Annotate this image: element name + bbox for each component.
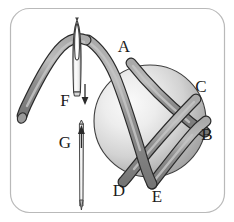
point-label-b: B (201, 125, 212, 144)
point-label-d: D (113, 181, 125, 200)
point-label-e: E (152, 187, 162, 206)
figure-container: .cord-outline { fill:none; stroke:#2a2a2… (0, 0, 234, 222)
point-label-c: C (195, 77, 206, 96)
point-label-f: F (60, 91, 69, 110)
point-label-a: A (118, 37, 131, 56)
point-label-g: G (59, 133, 71, 152)
upper-needle (73, 18, 81, 96)
needle-thread-bead-diagram: .cord-outline { fill:none; stroke:#2a2a2… (0, 0, 234, 222)
